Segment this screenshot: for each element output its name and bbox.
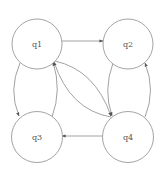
node-q2: q2 <box>103 19 153 69</box>
edge-q1-q4-upper <box>55 61 111 116</box>
edge-q3-q1-inner <box>52 62 57 117</box>
edge-q2-q4-inner <box>108 63 113 116</box>
node-q3: q3 <box>12 112 63 163</box>
state-label: q2 <box>123 40 133 49</box>
state-label: q4 <box>123 133 133 142</box>
state-diagram: q1 q2 q3 q4 <box>0 0 165 171</box>
state-label: q1 <box>32 40 42 49</box>
edge-q4-q2-outer <box>145 63 151 117</box>
node-q1: q1 <box>12 19 62 69</box>
node-q4: q4 <box>103 112 154 163</box>
edge-q4-q1-lower <box>54 62 111 117</box>
edge-q1-q3-outer <box>14 63 20 116</box>
state-label: q3 <box>32 133 42 142</box>
